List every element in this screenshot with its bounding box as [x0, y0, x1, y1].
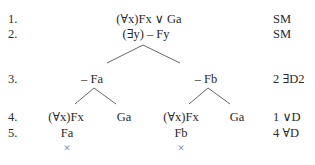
right-branch-line5: Fb: [174, 127, 187, 140]
right-branch-line4-right: Ga: [230, 111, 245, 124]
left-branch-line5: Fa: [61, 127, 74, 140]
branch-line-top-left: [107, 45, 143, 63]
justification-line-3: 2 ∃D2: [273, 73, 304, 86]
left-branch-line3: – Fa: [81, 73, 103, 86]
left-branch-line4-left: (∀x)Fx: [48, 111, 83, 124]
justification-line-2: SM: [273, 28, 291, 41]
branch-line-top-right: [143, 45, 180, 63]
tree-branches: [0, 0, 315, 165]
left-branch-line4-right: Ga: [117, 111, 132, 124]
branch-line-left-right: [94, 88, 116, 104]
branch-line-right-left: [189, 88, 208, 104]
justification-line-4: 1 ∨D: [273, 111, 301, 124]
branch-line-right-right: [208, 88, 230, 104]
right-branch-line4-left: (∀x)Fx: [163, 111, 198, 124]
right-branch-closed-mark: ×: [177, 142, 184, 155]
branch-line-left-left: [75, 88, 94, 104]
justification-line-5: 4 ∀D: [273, 127, 299, 140]
left-branch-closed-mark: ×: [63, 142, 70, 155]
right-branch-line3: – Fb: [195, 73, 218, 86]
justification-line-1: SM: [273, 13, 291, 26]
